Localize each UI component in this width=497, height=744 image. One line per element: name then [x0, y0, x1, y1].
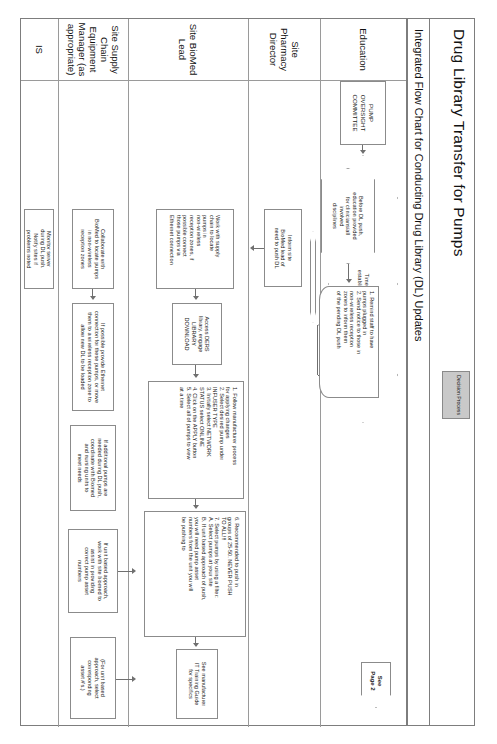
lane-label-supplychain-text: Site Supply Chain Equipment Manager (as … [66, 19, 121, 80]
supplychain-ethernet-box: If possible provide Ethernet connection … [72, 303, 114, 411]
lane-label-supplychain: Site Supply Chain Equipment Manager (as … [59, 19, 128, 81]
is-monitor-server-box: Monitor server during DL push. Notify si… [24, 209, 54, 289]
arrowhead [193, 643, 199, 647]
swimlane-is: IS Monitor server during DL push. Notify… [21, 19, 58, 727]
page-title: Drug Library Transfer for Pumps [450, 29, 468, 257]
lane-label-pharmacy-text: Site Pharmacy Director [268, 19, 301, 80]
lane-label-biomed-text: Site BioMed Lead [178, 19, 200, 80]
supplychain-collaborate-box: Collaborate with BioMed to locate pumps … [72, 209, 114, 289]
lane-label-is-text: IS [34, 19, 45, 80]
lane-label-education: Education [321, 19, 406, 81]
arrowhead [193, 505, 199, 509]
swimlane-supplychain: Site Supply Chain Equipment Manager (as … [58, 19, 128, 727]
arrowhead [193, 296, 199, 300]
biomed-steps-list-2: 6. Recommended to push in groups of 25-5… [144, 511, 246, 637]
swimlane-supplychain-body: Collaborate with BioMed to locate pumps … [59, 81, 128, 727]
lane-label-is: IS [21, 19, 58, 81]
swimlane-biomed: Site BioMed Lead Work with supply chain … [128, 19, 248, 727]
arrowhead [193, 374, 199, 378]
lane-label-education-text: Education [358, 19, 369, 80]
document-subtitle: Integrated Flow Chart for Conducting Dru… [413, 29, 425, 341]
education-notice-document: 1. Remind staff to have pumps plugged in… [319, 286, 379, 398]
biomed-ders-library-box: Access DERS library, engage LIBRARY DOWN… [172, 303, 222, 365]
biomed-manufacturer-guide-box: See manufacturer IT Training Guide for s… [176, 649, 218, 719]
swimlane-pharmacy-body: Inform site BioMed lead of need to push … [249, 81, 320, 727]
supplychain-asset-numbers-box: (For unit based approach, select corresp… [70, 637, 116, 719]
arrowhead [132, 676, 136, 682]
arrowhead [90, 296, 96, 300]
arrowhead [132, 568, 136, 574]
supplychain-additional-pumps-box: If additional pumps are needed during DL… [70, 425, 116, 511]
biomed-locate-pumps-box: Work with supply chain to locate pumps i… [156, 209, 234, 289]
lane-label-biomed: Site BioMed Lead [129, 19, 248, 81]
lane-label-pharmacy: Site Pharmacy Director [249, 19, 320, 81]
swimlane-biomed-body: Work with supply chain to locate pumps i… [129, 81, 248, 727]
flowchart-sheet: Drug Library Transfer for Pumps Decision… [20, 18, 475, 726]
arrowhead [250, 245, 254, 251]
biomed-steps-list-1: 1. Follow manufacturer process for apply… [148, 381, 244, 499]
pharmacy-inform-biomed-box: Inform site BioMed lead of need to push … [264, 209, 302, 287]
rotated-page-canvas: Drug Library Transfer for Pumps Decision… [0, 0, 497, 744]
pump-oversight-committee-box: PUMP OVERSIGHT COMMITTEE [340, 81, 386, 145]
connector-hex-to-doc [348, 264, 349, 280]
arrowhead [346, 279, 352, 283]
document-subtitle-bar: Integrated Flow Chart for Conducting Dru… [407, 18, 429, 726]
document-header: Drug Library Transfer for Pumps Decision… [429, 18, 475, 726]
arrowhead [360, 150, 366, 154]
education-before-push-hex: Before DL push, education provided for c… [321, 168, 375, 264]
supplychain-unit-based-box: If unit based approach, work with site b… [68, 529, 118, 613]
swimlane-pharmacy: Site Pharmacy Director Inform site BioMe… [248, 19, 320, 727]
swimlane-is-body: Monitor server during DL push. Notify si… [21, 81, 58, 727]
decision-process-badge: Decision Process [442, 371, 470, 419]
